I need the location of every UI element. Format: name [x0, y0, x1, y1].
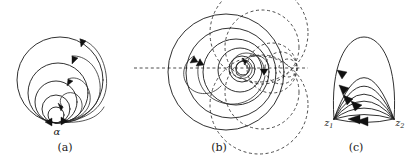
panel-c-z2-label: z2 — [396, 118, 405, 131]
figure-root: α z1 z2 (a) (b) (c) — [0, 0, 419, 167]
panel-a-alpha-label: α — [54, 126, 61, 137]
panel-a-caption: (a) — [57, 141, 72, 154]
panel-c-caption: (c) — [349, 141, 364, 154]
panel-b-caption: (b) — [211, 141, 227, 154]
panel-c-arc-family — [333, 37, 394, 123]
panel-c-arrowhead-1 — [337, 70, 347, 79]
panel-c-arrowhead-5 — [348, 115, 360, 124]
panel-c-z1-subscript: 1 — [329, 122, 333, 130]
panel-c-arc-6 — [334, 78, 394, 120]
panel-c-z1-label: z1 — [325, 118, 334, 131]
panel-c-z2-subscript: 2 — [400, 122, 404, 130]
panel-c-arrowhead-2 — [339, 85, 349, 95]
